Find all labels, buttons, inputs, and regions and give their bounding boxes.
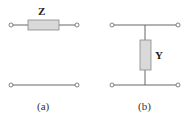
impedance-z-box — [28, 20, 59, 30]
terminal-a-top-right — [75, 23, 79, 27]
circuit-b — [110, 23, 180, 87]
caption-a: (a) — [37, 100, 49, 112]
terminal-b-top-right — [176, 23, 180, 27]
terminal-a-bottom-left — [9, 83, 13, 87]
terminal-b-bottom-right — [176, 83, 180, 87]
label-z: Z — [38, 5, 45, 17]
terminal-b-top-left — [110, 23, 114, 27]
terminal-a-top-left — [9, 23, 13, 27]
terminal-a-bottom-right — [75, 83, 79, 87]
terminal-b-bottom-left — [110, 83, 114, 87]
caption-b: (b) — [138, 100, 151, 112]
circuit-a — [9, 20, 79, 87]
label-y: Y — [155, 49, 163, 61]
admittance-y-box — [140, 40, 151, 70]
